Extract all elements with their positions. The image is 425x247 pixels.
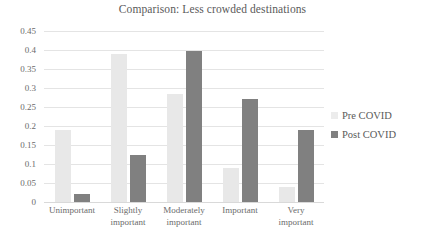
- bars-layer: [44, 31, 324, 202]
- bar-group: [100, 31, 156, 202]
- legend-item-label: Pre COVID: [342, 110, 392, 121]
- y-tick-label: 0.15: [20, 140, 36, 150]
- bar[interactable]: [74, 194, 90, 202]
- x-tick-label: Important: [212, 205, 268, 228]
- bar[interactable]: [111, 54, 127, 202]
- y-tick-label: 0.2: [25, 121, 36, 131]
- y-tick-label: 0.05: [20, 178, 36, 188]
- y-tick-label: 0.4: [25, 45, 36, 55]
- legend-swatch-icon: [331, 112, 338, 119]
- bar[interactable]: [279, 187, 295, 202]
- y-axis: 00.050.10.150.20.250.30.350.40.45: [0, 31, 40, 202]
- x-axis: UnimportantSlightly importantModerately …: [44, 205, 324, 228]
- bar-group: [268, 31, 324, 202]
- chart-legend: Pre COVIDPost COVID: [331, 110, 425, 148]
- bar-chart: Comparison: Less crowded destinations 00…: [0, 0, 425, 247]
- legend-swatch-icon: [331, 131, 338, 138]
- x-tick-label: Unimportant: [44, 205, 100, 228]
- y-tick-label: 0: [32, 197, 37, 207]
- bar[interactable]: [298, 130, 314, 202]
- bar[interactable]: [223, 168, 239, 202]
- bar[interactable]: [130, 155, 146, 203]
- y-tick-label: 0.35: [20, 64, 36, 74]
- bar-group: [212, 31, 268, 202]
- bar[interactable]: [167, 94, 183, 202]
- bar[interactable]: [55, 130, 71, 202]
- x-tick-label: Very important: [268, 205, 324, 228]
- y-tick-label: 0.3: [25, 83, 36, 93]
- legend-item[interactable]: Pre COVID: [331, 110, 425, 121]
- bar[interactable]: [186, 51, 202, 202]
- legend-item-label: Post COVID: [342, 129, 396, 140]
- y-tick-label: 0.45: [20, 26, 36, 36]
- legend-item[interactable]: Post COVID: [331, 129, 425, 140]
- gridline: [44, 202, 324, 203]
- x-tick-label: Slightly important: [100, 205, 156, 228]
- bar[interactable]: [242, 99, 258, 202]
- chart-title: Comparison: Less crowded destinations: [0, 3, 425, 15]
- y-tick-label: 0.25: [20, 102, 36, 112]
- bar-group: [44, 31, 100, 202]
- bar-group: [156, 31, 212, 202]
- y-tick-label: 0.1: [25, 159, 36, 169]
- x-tick-label: Moderately important: [156, 205, 212, 228]
